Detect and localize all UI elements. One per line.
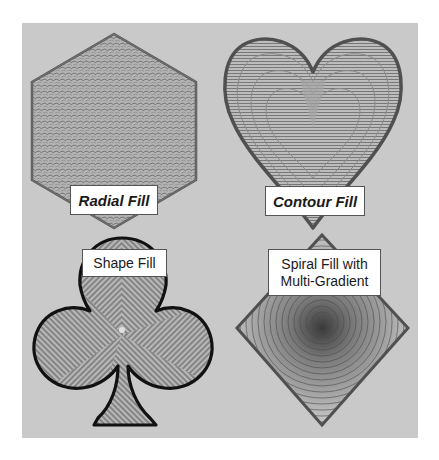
fill-illustrations xyxy=(0,0,439,460)
radial-fill-label: Radial Fill xyxy=(70,185,158,215)
spiral-fill-label-line-1: Spiral Fill with xyxy=(281,256,367,273)
shape-fill-label: Shape Fill xyxy=(82,249,167,277)
contour-fill-label-text: Contour Fill xyxy=(273,193,357,210)
shape-fill-label-text: Shape Fill xyxy=(93,255,155,272)
spiral-fill-label: Spiral Fill with Multi-Gradient xyxy=(268,249,381,296)
contour-fill-label: Contour Fill xyxy=(265,186,365,216)
radial-fill-label-text: Radial Fill xyxy=(79,192,150,209)
spiral-fill-label-line-2: Multi-Gradient xyxy=(281,273,369,290)
